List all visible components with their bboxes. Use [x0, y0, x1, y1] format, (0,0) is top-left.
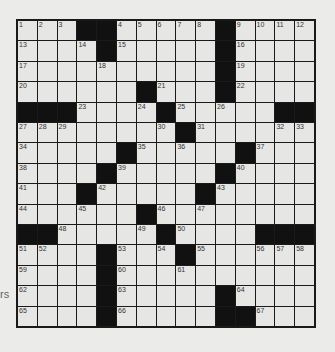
- grid-cell[interactable]: 31: [196, 123, 215, 142]
- grid-cell[interactable]: 40: [236, 164, 255, 183]
- grid-cell[interactable]: [176, 205, 195, 224]
- grid-cell[interactable]: [236, 103, 255, 122]
- grid-cell[interactable]: 13: [18, 41, 37, 60]
- grid-cell[interactable]: [275, 184, 294, 203]
- grid-cell[interactable]: [137, 245, 156, 264]
- grid-cell[interactable]: [256, 266, 275, 285]
- grid-cell[interactable]: 6: [157, 21, 176, 40]
- grid-cell[interactable]: [117, 123, 136, 142]
- grid-cell[interactable]: [38, 62, 57, 81]
- grid-cell[interactable]: [157, 143, 176, 162]
- grid-cell[interactable]: 16: [236, 41, 255, 60]
- grid-cell[interactable]: [295, 82, 314, 101]
- grid-cell[interactable]: [216, 245, 235, 264]
- grid-cell[interactable]: [137, 307, 156, 326]
- grid-cell[interactable]: 22: [236, 82, 255, 101]
- grid-cell[interactable]: [157, 164, 176, 183]
- grid-cell[interactable]: 25: [176, 103, 195, 122]
- grid-cell[interactable]: 59: [18, 266, 37, 285]
- grid-cell[interactable]: [176, 286, 195, 305]
- grid-cell[interactable]: 60: [117, 266, 136, 285]
- grid-cell[interactable]: [275, 205, 294, 224]
- grid-cell[interactable]: [38, 205, 57, 224]
- grid-cell[interactable]: 1: [18, 21, 37, 40]
- grid-cell[interactable]: 63: [117, 286, 136, 305]
- grid-cell[interactable]: [216, 225, 235, 244]
- grid-cell[interactable]: 4: [117, 21, 136, 40]
- grid-cell[interactable]: [77, 62, 96, 81]
- grid-cell[interactable]: [236, 205, 255, 224]
- grid-cell[interactable]: [236, 123, 255, 142]
- grid-cell[interactable]: 35: [137, 143, 156, 162]
- grid-cell[interactable]: 36: [176, 143, 195, 162]
- grid-cell[interactable]: [196, 225, 215, 244]
- grid-cell[interactable]: 10: [256, 21, 275, 40]
- grid-cell[interactable]: 56: [256, 245, 275, 264]
- grid-cell[interactable]: 17: [18, 62, 37, 81]
- grid-cell[interactable]: 46: [157, 205, 176, 224]
- grid-cell[interactable]: [137, 62, 156, 81]
- grid-cell[interactable]: [295, 164, 314, 183]
- grid-cell[interactable]: [58, 62, 77, 81]
- grid-cell[interactable]: [58, 184, 77, 203]
- grid-cell[interactable]: [38, 143, 57, 162]
- grid-cell[interactable]: [117, 62, 136, 81]
- grid-cell[interactable]: 38: [18, 164, 37, 183]
- grid-cell[interactable]: [97, 143, 116, 162]
- grid-cell[interactable]: [256, 123, 275, 142]
- grid-cell[interactable]: [256, 103, 275, 122]
- grid-cell[interactable]: [275, 143, 294, 162]
- grid-cell[interactable]: [275, 164, 294, 183]
- grid-cell[interactable]: [77, 266, 96, 285]
- grid-cell[interactable]: [176, 62, 195, 81]
- grid-cell[interactable]: 41: [18, 184, 37, 203]
- grid-cell[interactable]: 58: [295, 245, 314, 264]
- grid-cell[interactable]: [176, 184, 195, 203]
- grid-cell[interactable]: [38, 184, 57, 203]
- grid-cell[interactable]: [58, 82, 77, 101]
- grid-cell[interactable]: [38, 82, 57, 101]
- grid-cell[interactable]: [157, 41, 176, 60]
- grid-cell[interactable]: 49: [137, 225, 156, 244]
- grid-cell[interactable]: [196, 62, 215, 81]
- grid-cell[interactable]: [77, 286, 96, 305]
- grid-cell[interactable]: [295, 205, 314, 224]
- grid-cell[interactable]: 7: [176, 21, 195, 40]
- grid-cell[interactable]: 47: [196, 205, 215, 224]
- grid-cell[interactable]: 44: [18, 205, 37, 224]
- grid-cell[interactable]: [275, 266, 294, 285]
- grid-cell[interactable]: 11: [275, 21, 294, 40]
- grid-cell[interactable]: [77, 143, 96, 162]
- grid-cell[interactable]: [97, 103, 116, 122]
- grid-cell[interactable]: [196, 164, 215, 183]
- grid-cell[interactable]: [77, 164, 96, 183]
- grid-cell[interactable]: [256, 82, 275, 101]
- grid-cell[interactable]: [196, 82, 215, 101]
- grid-cell[interactable]: [38, 307, 57, 326]
- grid-cell[interactable]: 65: [18, 307, 37, 326]
- grid-cell[interactable]: [196, 307, 215, 326]
- grid-cell[interactable]: [58, 266, 77, 285]
- grid-cell[interactable]: [97, 225, 116, 244]
- grid-cell[interactable]: [137, 286, 156, 305]
- grid-cell[interactable]: 32: [275, 123, 294, 142]
- grid-cell[interactable]: [157, 266, 176, 285]
- grid-cell[interactable]: [77, 123, 96, 142]
- grid-cell[interactable]: 12: [295, 21, 314, 40]
- grid-cell[interactable]: 8: [196, 21, 215, 40]
- grid-cell[interactable]: 9: [236, 21, 255, 40]
- grid-cell[interactable]: [216, 266, 235, 285]
- grid-cell[interactable]: [38, 164, 57, 183]
- grid-cell[interactable]: [97, 205, 116, 224]
- grid-cell[interactable]: [256, 62, 275, 81]
- grid-cell[interactable]: [117, 225, 136, 244]
- grid-cell[interactable]: [176, 41, 195, 60]
- grid-cell[interactable]: [58, 245, 77, 264]
- grid-cell[interactable]: [58, 286, 77, 305]
- grid-cell[interactable]: [117, 82, 136, 101]
- grid-cell[interactable]: [236, 184, 255, 203]
- grid-cell[interactable]: [137, 41, 156, 60]
- grid-cell[interactable]: 48: [58, 225, 77, 244]
- grid-cell[interactable]: 55: [196, 245, 215, 264]
- grid-cell[interactable]: 20: [18, 82, 37, 101]
